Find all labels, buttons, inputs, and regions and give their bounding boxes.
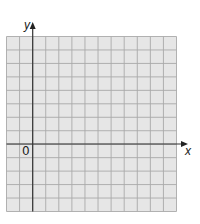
x-axis-label: x <box>185 145 191 157</box>
coordinate-plane <box>0 0 200 224</box>
origin-label: 0 <box>22 145 30 157</box>
y-axis-label: y <box>24 19 30 31</box>
y-axis-arrow-icon <box>30 22 36 29</box>
grid-background <box>7 37 177 212</box>
